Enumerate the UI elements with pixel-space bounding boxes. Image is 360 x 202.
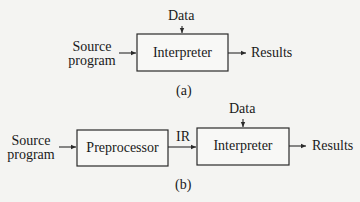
preprocessor-label: Preprocessor	[77, 141, 168, 155]
caption-a: (a)	[176, 84, 192, 98]
ir-label: IR	[176, 130, 190, 144]
data-label-b: Data	[229, 102, 255, 116]
interpreter-label-a: Interpreter	[137, 46, 228, 60]
diagram-canvas: Source program Data Interpreter Results …	[0, 0, 360, 202]
results-label-a: Results	[251, 46, 292, 60]
diagram-lines	[0, 0, 360, 202]
interpreter-label-b: Interpreter	[197, 139, 289, 153]
results-label-b: Results	[312, 139, 353, 153]
source-program-label-a: Source program	[68, 40, 116, 68]
data-label-a: Data	[168, 9, 194, 23]
caption-b: (b)	[175, 178, 191, 192]
source-program-label-b: Source program	[6, 134, 56, 162]
